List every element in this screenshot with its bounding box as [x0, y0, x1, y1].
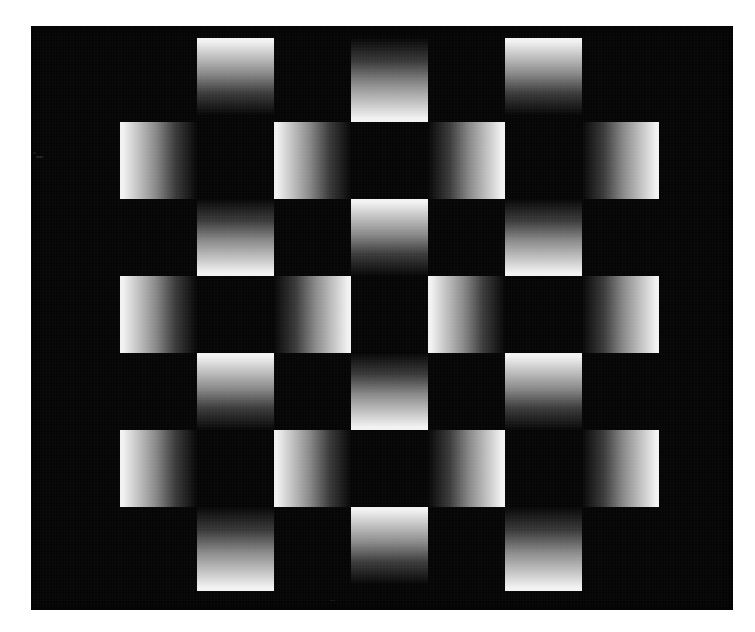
gradient-square-r1-c4: [428, 122, 505, 199]
gradient-square-r3-c4: [428, 276, 505, 353]
scan-speck-1: [33, 152, 36, 154]
gradient-square-r6-c3: [351, 507, 428, 584]
gradient-square-r0-c5: [505, 38, 582, 115]
gradient-square-r6-c5: [505, 507, 582, 591]
gradient-square-r4-c1: [197, 353, 274, 430]
gradient-square-r3-c6: [582, 276, 659, 353]
gradient-square-r2-c3: [351, 199, 428, 276]
gradient-square-r3-c2: [274, 276, 351, 353]
gradient-square-r0-c1: [197, 38, 274, 115]
gradient-square-r4-c3: [351, 353, 428, 430]
gradient-square-r5-c6: [582, 430, 659, 507]
gradient-square-r1-c0: [120, 122, 197, 199]
illusion-canvas: [31, 26, 733, 610]
scan-speck-2: [330, 600, 335, 601]
gradient-square-r5-c2: [274, 430, 351, 507]
gradient-square-r2-c5: [505, 199, 582, 276]
gradient-square-r4-c5: [505, 353, 582, 430]
gradient-square-r1-c2: [274, 122, 351, 199]
gradient-square-r2-c1: [197, 199, 274, 276]
gradient-square-r6-c1: [197, 507, 274, 591]
gradient-square-r5-c4: [428, 430, 505, 507]
gradient-square-r1-c6: [582, 122, 659, 199]
gradient-square-r5-c0: [120, 430, 197, 507]
figure-page: [0, 0, 755, 632]
scan-speck-0: [36, 156, 43, 158]
gradient-square-r3-c0: [120, 276, 197, 353]
gradient-square-r0-c3: [351, 38, 428, 122]
